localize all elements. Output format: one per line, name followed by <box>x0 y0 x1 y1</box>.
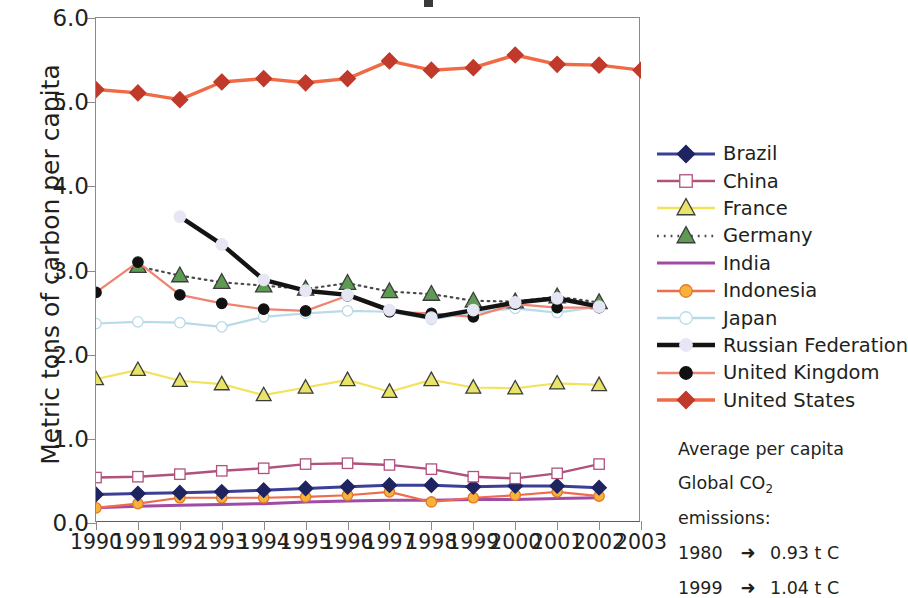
data-point-marker <box>677 199 695 215</box>
note-value: 1.04 t C <box>770 571 839 598</box>
data-point-marker <box>175 290 185 300</box>
data-point-marker <box>680 339 692 351</box>
legend-item-india[interactable]: India <box>655 250 863 277</box>
data-point-marker <box>550 375 565 388</box>
legend-item-france[interactable]: France <box>655 195 863 222</box>
legend-item-brazil[interactable]: Brazil <box>655 140 863 167</box>
data-point-marker <box>342 289 353 300</box>
note-block: Average per capita Global CO2 emissions:… <box>678 432 868 598</box>
x-tick-label: 2003 <box>615 532 667 553</box>
legend-item-japan[interactable]: Japan <box>655 304 863 331</box>
series-china <box>96 458 604 484</box>
note-line-2: Global CO2 emissions: <box>678 466 868 535</box>
data-point-marker <box>258 274 269 285</box>
x-tick-mark <box>431 521 432 530</box>
legend-label: Russian Federation <box>723 334 908 357</box>
data-point-marker <box>591 57 607 73</box>
legend-item-united-kingdom[interactable]: United Kingdom <box>655 359 863 386</box>
chart-svg <box>96 18 641 523</box>
data-point-marker <box>340 71 356 87</box>
series-line <box>138 266 599 302</box>
line-triangle-marker-icon <box>655 196 717 220</box>
x-tick-mark <box>306 521 307 530</box>
data-point-marker <box>680 367 692 379</box>
x-tick-mark <box>557 521 558 530</box>
legend-label: Indonesia <box>723 279 817 302</box>
data-point-marker <box>131 486 145 500</box>
data-point-marker <box>175 469 185 479</box>
data-point-marker <box>426 312 437 323</box>
legend-label: Germany <box>723 224 813 247</box>
legend-item-indonesia[interactable]: Indonesia <box>655 277 863 304</box>
data-point-marker <box>468 472 478 482</box>
data-point-marker <box>424 372 439 385</box>
data-point-marker <box>510 473 520 483</box>
data-point-marker <box>680 284 692 296</box>
note-rows: 1980➜0.93 t C1999➜1.04 t C <box>678 535 868 598</box>
line-circle-marker-icon <box>655 279 717 303</box>
data-point-marker <box>342 306 352 316</box>
data-point-marker <box>552 468 562 478</box>
data-point-marker <box>256 71 272 87</box>
line-filled-circle-marker-icon <box>655 361 717 385</box>
arrow-icon: ➜ <box>726 535 770 570</box>
legend-item-germany[interactable]: Germany <box>655 222 863 249</box>
legend-label: France <box>723 197 788 220</box>
dotted-line-triangle-marker-icon <box>655 224 717 248</box>
data-point-marker <box>133 317 143 327</box>
arrow-icon: ➜ <box>726 570 770 598</box>
line-diamond-marker-icon <box>655 142 717 166</box>
x-tick-mark <box>473 521 474 530</box>
legend-item-china[interactable]: China <box>655 167 863 194</box>
data-point-marker <box>340 480 354 494</box>
data-point-marker <box>298 481 312 495</box>
note-line-2-pre: Global CO <box>678 473 765 493</box>
data-point-marker <box>426 497 436 507</box>
note-year: 1980 <box>678 536 726 570</box>
data-point-marker <box>339 275 355 290</box>
series-united-states <box>96 47 641 107</box>
data-point-marker <box>468 304 479 315</box>
data-point-marker <box>130 85 146 101</box>
legend-item-united-states[interactable]: United States <box>655 387 863 414</box>
y-tick-label: 6.0 <box>52 7 89 30</box>
data-point-marker <box>258 304 268 314</box>
legend-label: India <box>723 252 771 275</box>
x-tick-mark <box>641 521 642 530</box>
data-point-marker <box>217 466 227 476</box>
thick-line-circle-marker-icon <box>655 333 717 357</box>
y-tick-label: 3.0 <box>52 259 89 282</box>
legend-item-russian-federation[interactable]: Russian Federation <box>655 332 863 359</box>
y-tick-label: 5.0 <box>52 91 89 114</box>
line-diamond-marker-icon <box>655 388 717 412</box>
data-point-marker <box>217 298 227 308</box>
data-point-marker <box>300 306 310 316</box>
data-point-marker <box>216 239 227 250</box>
data-point-marker <box>96 318 101 328</box>
x-tick-mark <box>222 521 223 530</box>
note-year: 1999 <box>678 571 726 598</box>
data-point-marker <box>96 472 101 482</box>
data-point-marker <box>551 293 562 304</box>
data-point-marker <box>133 257 143 267</box>
data-point-marker <box>96 287 101 297</box>
data-point-marker <box>549 56 565 72</box>
y-tick-label: 1.0 <box>52 427 89 450</box>
co2-subscript: 2 <box>765 482 773 496</box>
data-point-marker <box>426 464 436 474</box>
legend-label: Brazil <box>723 142 777 165</box>
x-tick-mark <box>515 521 516 530</box>
data-point-marker <box>174 211 185 222</box>
data-point-marker <box>96 487 103 501</box>
data-point-marker <box>384 304 395 315</box>
data-point-marker <box>633 62 641 78</box>
data-point-marker <box>217 322 227 332</box>
x-tick-mark <box>264 521 265 530</box>
data-point-marker <box>680 312 692 324</box>
note-row: 1980➜0.93 t C <box>678 535 868 570</box>
x-tick-mark <box>389 521 390 530</box>
data-point-marker <box>258 463 268 473</box>
x-tick-mark <box>96 521 97 530</box>
legend-label: Japan <box>723 307 777 330</box>
